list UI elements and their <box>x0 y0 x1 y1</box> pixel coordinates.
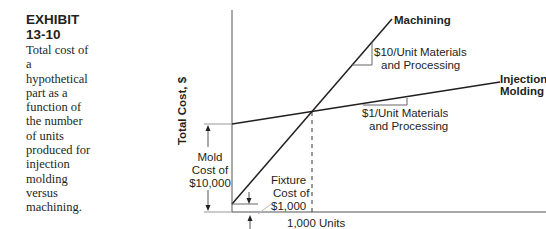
machining-label: Machining <box>394 14 451 26</box>
x-marker-label: 1,000 Units <box>287 217 345 229</box>
injection-slope-label-1: $1/Unit Materials <box>362 107 449 119</box>
arrow-up-icon <box>248 215 253 221</box>
mold-cost-label-1: Mold <box>198 151 223 163</box>
injection-label-2: Molding <box>500 85 544 97</box>
fixture-cost-label-1: Fixture <box>271 174 306 186</box>
mold-cost-label-2: Cost of <box>192 164 229 176</box>
injection-slope-triangle <box>363 98 407 105</box>
machining-slope-label-1: $10/Unit Materials <box>374 46 467 58</box>
fixture-cost-label-2: Cost of <box>273 187 310 199</box>
arrow-up-icon <box>206 125 211 131</box>
machining-slope-label-2: and Processing <box>381 59 460 71</box>
mold-cost-label-3: $10,000 <box>189 177 231 189</box>
injection-label-1: Injection <box>500 73 546 85</box>
injection-slope-label-2: and Processing <box>369 120 448 132</box>
cost-chart: Total Cost, $ Machining $10/Unit Materia… <box>0 0 546 229</box>
y-axis-label: Total Cost, $ <box>176 76 188 145</box>
arrow-down-icon <box>247 198 252 204</box>
arrow-down-icon <box>206 205 211 211</box>
fixture-cost-label-3: $1,000 <box>271 200 306 212</box>
